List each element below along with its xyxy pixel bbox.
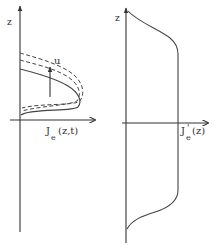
right-x-label-main: J <box>180 125 185 136</box>
left-x-label-sub: e <box>51 133 56 142</box>
left-panel: u z J e (z,t) <box>7 6 95 232</box>
left-z-label: z <box>7 17 12 27</box>
left-x-label-args: (z,t) <box>58 125 78 136</box>
right-x-label-sub: e <box>186 133 191 142</box>
right-x-label-prime: ' <box>187 123 189 133</box>
right-panel: z J ' e (z) <box>115 8 208 243</box>
velocity-label: u <box>54 55 61 66</box>
derivative-profile <box>127 11 178 229</box>
right-z-label: z <box>115 13 120 23</box>
dashed-profile-outer <box>20 53 83 108</box>
diagram-canvas: u z J e (z,t) z J ' e (z) <box>0 0 217 248</box>
left-x-label-main: J <box>45 125 50 136</box>
right-x-label-args: (z) <box>192 125 205 136</box>
